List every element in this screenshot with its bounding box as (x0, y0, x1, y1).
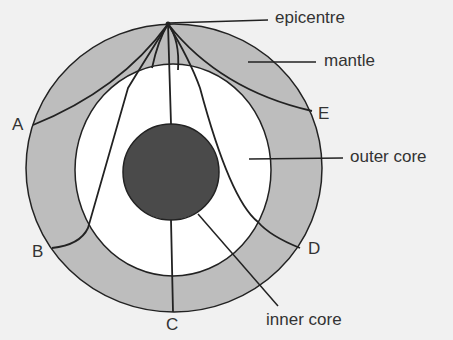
epicentre-point (166, 22, 171, 27)
station-d: D (308, 240, 320, 257)
label-outer-core: outer core (350, 148, 427, 165)
label-epicentre: epicentre (275, 9, 345, 26)
inner-core-layer (123, 124, 219, 220)
label-mantle: mantle (324, 52, 375, 69)
station-b: B (32, 243, 43, 260)
station-e: E (318, 105, 329, 122)
label-inner-core: inner core (266, 311, 342, 328)
station-c: C (166, 316, 178, 333)
station-a: A (12, 116, 23, 133)
earth-diagram (0, 0, 453, 340)
